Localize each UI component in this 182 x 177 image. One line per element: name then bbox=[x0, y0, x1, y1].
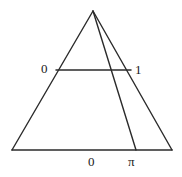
geometry-figure: 0 1 0 π bbox=[0, 0, 182, 177]
label-chord-right-one: 1 bbox=[135, 63, 142, 76]
apex-cevian-line bbox=[93, 11, 136, 150]
figure-canvas bbox=[0, 0, 182, 177]
label-chord-left-zero: 0 bbox=[41, 62, 48, 75]
triangle-right-edge bbox=[93, 11, 172, 150]
label-base-pi: π bbox=[128, 155, 135, 168]
triangle-left-edge bbox=[12, 11, 93, 150]
label-base-zero: 0 bbox=[88, 155, 95, 168]
